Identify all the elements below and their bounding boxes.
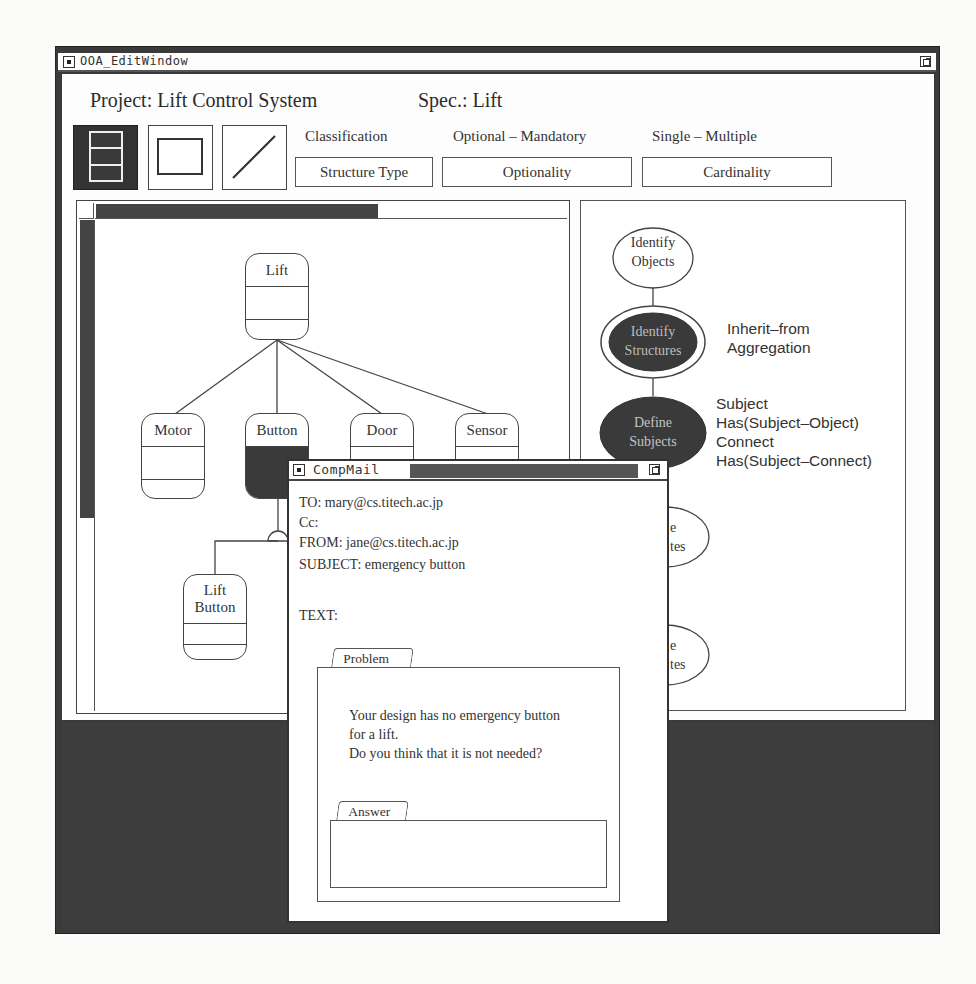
node-label: Button (246, 414, 308, 446)
problem-line: Your design has no emergency button (349, 706, 560, 725)
mail-from[interactable]: FROM: jane@cs.titech.ac.jp (299, 535, 459, 551)
class-node-lift[interactable]: Lift (245, 253, 309, 340)
step-label-line2: Structures (608, 341, 698, 360)
node-attributes (142, 446, 204, 479)
window-title: CompMail (313, 462, 380, 477)
problem-line: for a lift. (349, 725, 560, 744)
problem-line: Do you think that it is not needed? (349, 744, 560, 763)
node-label: Lift (246, 254, 308, 286)
step-label-identify-structures: Identify Structures (608, 322, 698, 360)
problem-tab-label: Problem (343, 649, 389, 669)
step-label-define-subjects: Define Subjects (608, 413, 698, 451)
node-attributes (184, 623, 246, 644)
step-label-line1: e (670, 518, 686, 537)
annotation-inherit-from: Inherit–from (727, 319, 811, 338)
annotation-subject: Subject (716, 394, 872, 413)
annotation-has-subject-object: Has(Subject–Object) (716, 413, 872, 432)
mail-text-label: TEXT: (299, 608, 338, 624)
answer-tab-label: Answer (348, 802, 390, 822)
step-label-line2: tes (670, 655, 686, 674)
answer-textarea[interactable] (330, 820, 607, 888)
node-label: Lift Button (184, 575, 246, 623)
step-label-line1: Identify (614, 233, 692, 252)
step-label-line2: tes (670, 537, 686, 556)
class-node-motor[interactable]: Motor (141, 413, 205, 499)
annotation-connect: Connect (716, 432, 872, 451)
subjects-annotation: Subject Has(Subject–Object) Connect Has(… (716, 394, 872, 470)
node-services (142, 479, 204, 499)
node-label: Motor (142, 414, 204, 446)
class-node-lift-button[interactable]: Lift Button (183, 574, 247, 660)
step-label-line1: e (670, 636, 686, 655)
node-services (184, 644, 246, 660)
step-label-identify-objects: Identify Objects (614, 233, 692, 271)
step-label-partial-1: e tes (670, 518, 686, 556)
structures-annotation: Inherit–from Aggregation (727, 319, 811, 357)
problem-tab[interactable]: Problem (331, 648, 414, 668)
step-label-line2: Objects (614, 252, 692, 271)
window-close-icon[interactable] (293, 464, 305, 476)
mail-to[interactable]: TO: mary@cs.titech.ac.jp (299, 495, 443, 511)
step-label-line1: Identify (608, 322, 698, 341)
mail-subject[interactable]: SUBJECT: emergency button (299, 557, 465, 573)
problem-text: Your design has no emergency button for … (349, 706, 560, 763)
annotation-aggregation: Aggregation (727, 338, 811, 357)
window-zoom-icon[interactable] (649, 464, 660, 475)
annotation-has-subject-connect: Has(Subject–Connect) (716, 451, 872, 470)
step-label-line2: Subjects (608, 432, 698, 451)
step-label-line1: Define (608, 413, 698, 432)
titlebar-active-fill (410, 464, 638, 478)
node-label: Door (351, 414, 413, 446)
answer-tab[interactable]: Answer (336, 801, 409, 821)
node-attributes (246, 286, 308, 319)
node-label: Sensor (456, 414, 518, 446)
step-label-partial-2: e tes (670, 636, 686, 674)
mail-cc[interactable]: Cc: (299, 515, 318, 531)
node-services (246, 319, 308, 340)
